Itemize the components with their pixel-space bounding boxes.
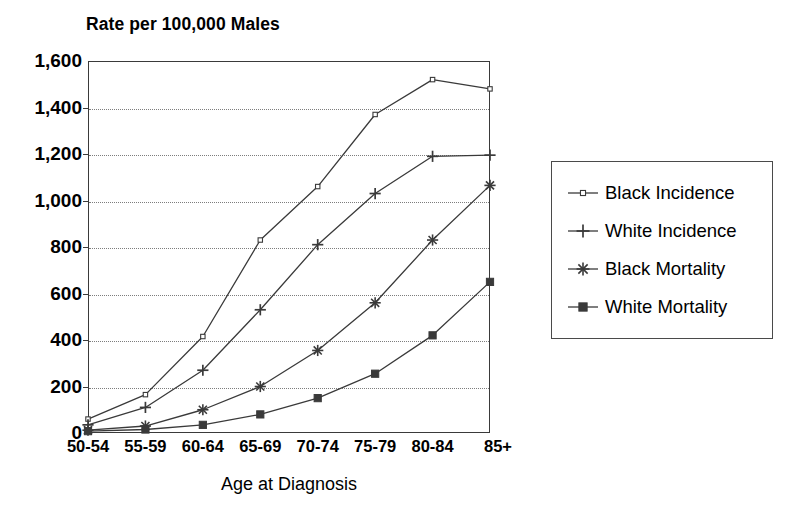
gridline: [89, 155, 489, 156]
legend-item-black-mortality[interactable]: Black Mortality: [552, 250, 772, 288]
legend: Black IncidenceWhite IncidenceBlack Mort…: [551, 161, 773, 339]
gridline: [89, 109, 489, 110]
chart-figure: Rate per 100,000 Males 02004006008001,00…: [0, 0, 792, 532]
asterisk-marker-icon: [565, 259, 601, 279]
gridline: [89, 248, 489, 249]
legend-item-black-incidence[interactable]: Black Incidence: [552, 174, 772, 212]
y-tick-label: 400: [0, 329, 82, 351]
legend-item-label: Black Incidence: [605, 182, 735, 204]
x-tick-label: 65-69: [239, 437, 281, 456]
legend-item-label: Black Mortality: [605, 258, 725, 280]
x-tick-label: 70-74: [297, 437, 339, 456]
square-marker-icon: [565, 297, 601, 317]
x-tick-label: 55-59: [124, 437, 166, 456]
x-tick-label: 60-64: [182, 437, 224, 456]
plus-marker-icon: [565, 221, 601, 241]
legend-item-white-mortality[interactable]: White Mortality: [552, 288, 772, 326]
x-tick-label: 80-84: [411, 437, 453, 456]
chart-title: Rate per 100,000 Males: [86, 14, 280, 35]
dot-marker-icon: [565, 183, 601, 203]
y-tick-label: 200: [0, 376, 82, 398]
plot-area: [88, 61, 490, 433]
x-tick-label: 50-54: [67, 437, 109, 456]
x-tick-label: 75-79: [354, 437, 396, 456]
y-tick-label: 1,400: [0, 97, 82, 119]
y-tick-label: 1,000: [0, 190, 82, 212]
y-tick-label: 800: [0, 236, 82, 258]
gridline: [89, 388, 489, 389]
y-tick-label: 1,200: [0, 143, 82, 165]
x-axis-title: Age at Diagnosis: [88, 474, 490, 495]
gridline: [89, 202, 489, 203]
y-tick-label: 1,600: [0, 50, 82, 72]
gridline: [89, 295, 489, 296]
legend-item-white-incidence[interactable]: White Incidence: [552, 212, 772, 250]
gridline: [89, 341, 489, 342]
x-tick-label: 85+: [484, 437, 512, 456]
legend-item-label: White Incidence: [605, 220, 737, 242]
y-tick-label: 600: [0, 283, 82, 305]
legend-item-label: White Mortality: [605, 296, 727, 318]
